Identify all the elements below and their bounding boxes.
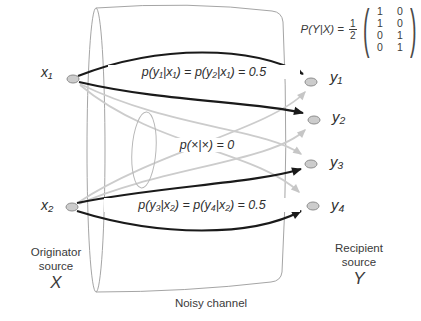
node-label-y4: y₄ [331, 196, 345, 213]
prob-label-x1: p(y₁|x₁) = p(y₂|x₁) = 0.5 [108, 65, 300, 79]
matrix-cell: 1 [393, 41, 406, 53]
fraction-one-half: 1 2 [349, 18, 357, 41]
node-label-x2: x₂ [41, 197, 53, 213]
node-label-y1: y₁ [330, 68, 342, 85]
matrix-cell: 0 [373, 29, 386, 41]
node-label-y2: y₂ [332, 108, 345, 125]
fraction-numerator: 1 [349, 18, 357, 30]
prob-label-zero: p(×|×) = 0 [157, 138, 257, 152]
recipient-line1: Recipient [311, 242, 407, 256]
edge-x2-y4 [77, 211, 301, 231]
matrix-cell: 0 [393, 5, 406, 17]
node-label-x1: x₁ [41, 64, 52, 80]
right-paren: ) [410, 2, 417, 55]
originator-line2: source [6, 260, 106, 274]
originator-symbol: X [6, 276, 106, 290]
transition-matrix-formula: P(Y|X) = 1 2 ( 1 0 1 0 0 1 0 1 ) [301, 5, 418, 53]
matrix-cell: 1 [373, 17, 386, 29]
node-x2 [66, 203, 78, 211]
recipient-symbol: Y [311, 272, 407, 286]
node-label-y3: y₃ [330, 153, 343, 170]
recipient-line2: source [311, 256, 407, 270]
matrix-cell: 0 [393, 17, 406, 29]
matrix-cell: 0 [373, 41, 386, 53]
originator-caption: Originator source X [6, 246, 106, 290]
fraction-denominator: 2 [350, 30, 356, 41]
formula-lhs: P(Y|X) = [301, 23, 345, 35]
channel-caption: Noisy channel [149, 297, 273, 311]
left-paren: ( [363, 2, 370, 55]
prob-label-x2: p(y₃|x₂) = p(y₄|x₂) = 0.5 [104, 198, 300, 212]
channel-diagram: x₁ x₂ y₁ y₂ y₃ y₄ p(y₁|x₁) = p(y₂|x₁) = … [0, 0, 421, 321]
node-y1 [305, 78, 317, 86]
matrix-cell: 1 [393, 29, 406, 41]
matrix-cell: 1 [373, 5, 386, 17]
matrix-grid: 1 0 1 0 0 1 0 1 [373, 5, 406, 53]
node-y4 [307, 202, 319, 210]
recipient-caption: Recipient source Y [311, 242, 407, 286]
originator-line1: Originator [6, 246, 106, 260]
zero-prob-loop [129, 111, 158, 188]
node-y2 [308, 116, 320, 124]
node-x1 [67, 75, 79, 83]
node-y3 [305, 160, 317, 168]
